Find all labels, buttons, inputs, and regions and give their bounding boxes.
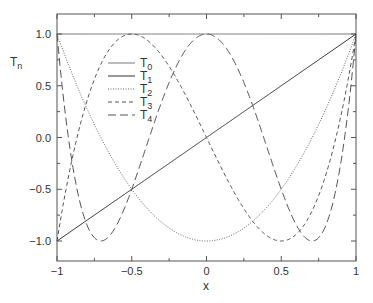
y-tick-label: 1.0 — [36, 28, 51, 40]
x-tick-label: 1 — [353, 265, 359, 277]
x-tick-labels: −1−0.500.51 — [51, 265, 359, 277]
legend-item-t4: T4 — [108, 108, 152, 124]
x-tick-label: 0.5 — [274, 265, 289, 277]
legend: T0T1T2T3T4 — [108, 56, 152, 124]
y-tick-label: −1.0 — [29, 235, 51, 247]
y-tick-label: 0.5 — [36, 80, 51, 92]
y-axis-label: Tn — [10, 55, 22, 71]
x-axis-label: x — [203, 279, 209, 293]
chebyshev-chart: 1.00.50.0−0.5−1.0 −1−0.500.51 T0T1T2T3T4… — [0, 0, 373, 303]
x-tick-label: 0 — [203, 265, 209, 277]
y-tick-label: 0.0 — [36, 132, 51, 144]
x-tick-label: −1 — [51, 265, 64, 277]
y-tick-labels: 1.00.50.0−0.5−1.0 — [29, 28, 51, 247]
curves — [57, 34, 356, 241]
x-tick-label: −0.5 — [121, 265, 143, 277]
y-tick-label: −0.5 — [29, 183, 51, 195]
